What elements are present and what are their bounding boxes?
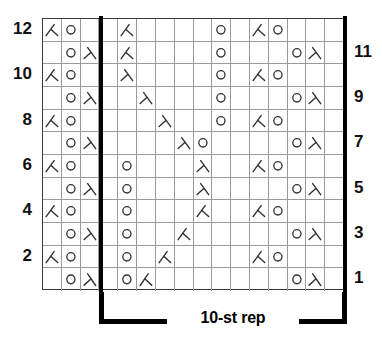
chart-cell-blank[interactable] [81, 155, 100, 178]
chart-cell-k2tog[interactable] [250, 19, 269, 42]
chart-cell-blank[interactable] [194, 42, 213, 65]
chart-cell-blank[interactable] [325, 42, 344, 65]
chart-cell-o[interactable] [288, 132, 307, 155]
chart-cell-blank[interactable] [231, 132, 250, 155]
chart-cell-ssk[interactable] [156, 110, 175, 133]
chart-cell-blank[interactable] [137, 19, 156, 42]
chart-cell-blank[interactable] [137, 200, 156, 223]
chart-cell-blank[interactable] [250, 87, 269, 110]
chart-cell-blank[interactable] [81, 200, 100, 223]
chart-cell-blank[interactable] [250, 268, 269, 291]
chart-cell-o[interactable] [288, 268, 307, 291]
chart-cell-ssk[interactable] [306, 87, 325, 110]
chart-cell-blank[interactable] [194, 87, 213, 110]
chart-cell-o[interactable] [118, 268, 137, 291]
chart-cell-blank[interactable] [250, 132, 269, 155]
chart-cell-blank[interactable] [156, 87, 175, 110]
chart-cell-blank[interactable] [325, 178, 344, 201]
chart-cell-blank[interactable] [194, 268, 213, 291]
chart-cell-blank[interactable] [306, 155, 325, 178]
chart-cell-blank[interactable] [137, 132, 156, 155]
chart-cell-blank[interactable] [212, 155, 231, 178]
chart-cell-blank[interactable] [212, 200, 231, 223]
chart-cell-o[interactable] [194, 132, 213, 155]
chart-cell-k2tog[interactable] [250, 110, 269, 133]
chart-cell-k2tog[interactable] [43, 200, 62, 223]
chart-cell-o[interactable] [118, 178, 137, 201]
chart-cell-blank[interactable] [81, 110, 100, 133]
chart-cell-blank[interactable] [43, 268, 62, 291]
chart-cell-k2tog[interactable] [175, 223, 194, 246]
chart-cell-blank[interactable] [156, 19, 175, 42]
chart-cell-o[interactable] [269, 200, 288, 223]
chart-cell-o[interactable] [118, 223, 137, 246]
chart-cell-blank[interactable] [175, 87, 194, 110]
chart-cell-blank[interactable] [212, 246, 231, 269]
chart-cell-blank[interactable] [288, 64, 307, 87]
chart-cell-ssk[interactable] [118, 64, 137, 87]
chart-cell-o[interactable] [269, 19, 288, 42]
chart-cell-o[interactable] [62, 223, 81, 246]
chart-cell-blank[interactable] [194, 246, 213, 269]
chart-cell-blank[interactable] [156, 64, 175, 87]
chart-cell-blank[interactable] [306, 110, 325, 133]
chart-cell-blank[interactable] [212, 178, 231, 201]
chart-cell-k2tog[interactable] [43, 19, 62, 42]
chart-cell-blank[interactable] [250, 42, 269, 65]
chart-cell-ssk[interactable] [194, 155, 213, 178]
chart-cell-o[interactable] [212, 110, 231, 133]
chart-cell-k2tog[interactable] [118, 19, 137, 42]
chart-cell-o[interactable] [212, 87, 231, 110]
chart-cell-k2tog[interactable] [43, 246, 62, 269]
chart-cell-blank[interactable] [325, 223, 344, 246]
chart-cell-blank[interactable] [288, 155, 307, 178]
chart-cell-blank[interactable] [156, 223, 175, 246]
chart-cell-o[interactable] [212, 64, 231, 87]
chart-cell-blank[interactable] [325, 64, 344, 87]
chart-cell-blank[interactable] [43, 87, 62, 110]
chart-cell-ssk[interactable] [306, 223, 325, 246]
chart-cell-blank[interactable] [325, 132, 344, 155]
chart-cell-blank[interactable] [156, 132, 175, 155]
chart-cell-blank[interactable] [175, 19, 194, 42]
chart-cell-blank[interactable] [231, 19, 250, 42]
chart-cell-o[interactable] [62, 200, 81, 223]
chart-cell-ssk[interactable] [81, 87, 100, 110]
chart-cell-k2tog[interactable] [194, 200, 213, 223]
chart-cell-blank[interactable] [43, 178, 62, 201]
chart-cell-blank[interactable] [269, 87, 288, 110]
chart-cell-ssk[interactable] [81, 42, 100, 65]
chart-cell-blank[interactable] [212, 268, 231, 291]
chart-cell-o[interactable] [118, 246, 137, 269]
chart-cell-o[interactable] [269, 110, 288, 133]
chart-cell-ssk[interactable] [81, 223, 100, 246]
chart-cell-blank[interactable] [156, 268, 175, 291]
chart-cell-o[interactable] [269, 64, 288, 87]
chart-cell-o[interactable] [62, 19, 81, 42]
chart-cell-blank[interactable] [269, 268, 288, 291]
chart-cell-blank[interactable] [156, 178, 175, 201]
chart-cell-o[interactable] [62, 64, 81, 87]
chart-cell-ssk[interactable] [175, 132, 194, 155]
chart-cell-blank[interactable] [81, 19, 100, 42]
chart-cell-blank[interactable] [175, 42, 194, 65]
chart-cell-blank[interactable] [288, 200, 307, 223]
chart-cell-blank[interactable] [231, 155, 250, 178]
chart-cell-blank[interactable] [325, 87, 344, 110]
chart-cell-blank[interactable] [194, 110, 213, 133]
chart-cell-ssk[interactable] [81, 178, 100, 201]
chart-cell-blank[interactable] [175, 246, 194, 269]
chart-cell-blank[interactable] [269, 132, 288, 155]
chart-cell-blank[interactable] [194, 223, 213, 246]
chart-cell-o[interactable] [62, 178, 81, 201]
chart-cell-blank[interactable] [194, 64, 213, 87]
chart-cell-blank[interactable] [194, 19, 213, 42]
chart-cell-blank[interactable] [156, 200, 175, 223]
chart-cell-blank[interactable] [231, 246, 250, 269]
chart-cell-ssk[interactable] [81, 268, 100, 291]
chart-cell-blank[interactable] [306, 64, 325, 87]
chart-cell-blank[interactable] [137, 155, 156, 178]
chart-cell-blank[interactable] [43, 42, 62, 65]
chart-cell-k2tog[interactable] [250, 155, 269, 178]
chart-cell-k2tog[interactable] [43, 110, 62, 133]
